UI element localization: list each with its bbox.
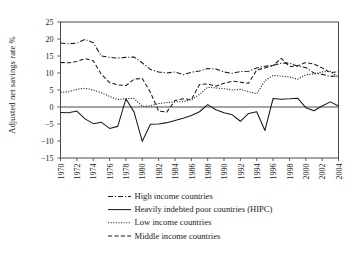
x-tick-label: 1986	[188, 164, 197, 180]
chart-figure: Adjusted net savings rate % −15−10−50510…	[0, 0, 355, 254]
y-tick-label-group: −15−10−50510152025	[41, 18, 54, 163]
y-tick-label: 20	[46, 35, 54, 44]
x-tick-label: 1970	[57, 164, 66, 180]
x-tick-label: 1976	[106, 164, 115, 180]
series-line-1	[61, 98, 339, 141]
x-tick-label: 1994	[253, 164, 262, 180]
x-tick-label: 1998	[286, 164, 295, 180]
y-tick-label: 10	[46, 69, 54, 78]
x-tick-label: 2004	[335, 164, 344, 180]
series-line-0	[61, 39, 339, 76]
x-tick-label-group: 1970197219741976197819801982198419861988…	[57, 164, 344, 180]
x-tick-label: 1996	[269, 164, 278, 180]
x-tick-label: 1972	[73, 164, 82, 180]
x-tick-label: 1984	[171, 164, 180, 180]
x-tick-label: 1990	[220, 164, 229, 180]
y-tick-label: −5	[45, 120, 54, 129]
series-line-2	[61, 71, 339, 106]
y-tick-label: 5	[50, 86, 54, 95]
x-tick-label: 2000	[302, 164, 311, 180]
chart-legend: High income countriesHeavily indebted po…	[108, 191, 273, 241]
series-line-3	[61, 58, 339, 112]
y-axis-label: Adjusted net savings rate %	[4, 10, 20, 160]
y-tick-label: −10	[41, 137, 54, 146]
x-tick-label: 1978	[122, 164, 131, 180]
series-group	[61, 39, 339, 141]
legend-label-0: High income countries	[135, 191, 214, 201]
legend-label-2: Low income countries	[135, 217, 213, 227]
plot-frame	[61, 22, 339, 158]
y-tick-label: −15	[41, 154, 54, 163]
y-axis-label-text: Adjusted net savings rate %	[7, 36, 17, 134]
chart-svg: −15−10−50510152025 197019721974197619781…	[0, 0, 355, 254]
x-tick-label: 2002	[318, 164, 327, 180]
x-tick-label: 1982	[155, 164, 164, 180]
legend-label-1: Heavily indebted poor countries (HIPC)	[135, 204, 273, 214]
y-tick-label: 25	[46, 18, 54, 27]
x-tick-label: 1974	[89, 164, 98, 180]
legend-label-3: Middle income countries	[135, 231, 222, 241]
x-tick-label: 1980	[138, 164, 147, 180]
x-tick-label: 1992	[237, 164, 246, 180]
y-tick-label: 0	[50, 103, 54, 112]
x-tick-label: 1988	[204, 164, 213, 180]
y-tick-label: 15	[46, 52, 54, 61]
